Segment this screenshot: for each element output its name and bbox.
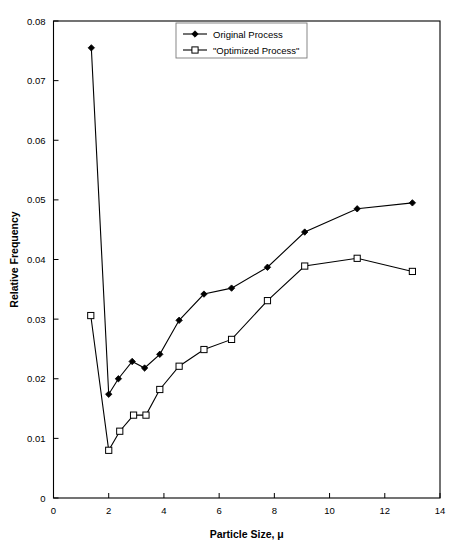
data-point-open-square <box>409 268 415 274</box>
y-tick-label: 0.02 <box>27 373 46 384</box>
x-tick-label: 2 <box>106 505 111 516</box>
data-point-filled-diamond <box>409 200 415 206</box>
data-point-open-square <box>88 312 94 318</box>
chart-canvas: 02468101214 00.010.020.030.040.050.060.0… <box>0 0 459 554</box>
y-tick-label: 0 <box>40 493 45 504</box>
plot-frame <box>54 21 441 498</box>
y-tick-label: 0.01 <box>27 433 46 444</box>
data-point-open-square <box>302 263 308 269</box>
y-tick-label: 0.04 <box>27 254 46 265</box>
plot-border <box>54 21 441 498</box>
data-point-open-square <box>264 298 270 304</box>
x-axis-ticks: 02468101214 <box>51 493 445 516</box>
data-point-filled-diamond <box>106 391 112 397</box>
series-line <box>91 48 412 394</box>
x-tick-label: 12 <box>379 505 390 516</box>
data-point-open-square <box>228 336 234 342</box>
y-tick-label: 0.03 <box>27 314 46 325</box>
x-tick-label: 10 <box>324 505 335 516</box>
data-point-open-square <box>117 428 123 434</box>
data-point-open-square <box>130 412 136 418</box>
x-tick-label: 0 <box>51 505 56 516</box>
data-point-open-square <box>106 447 112 453</box>
chart-legend: Original Process"Optimized Process" <box>176 23 307 58</box>
data-point-open-square <box>143 412 149 418</box>
legend-entry-label: Original Process <box>213 29 283 40</box>
y-tick-label: 0.07 <box>27 75 46 86</box>
data-point-open-square <box>176 363 182 369</box>
data-point-filled-diamond <box>354 206 360 212</box>
legend-marker-open-square <box>192 47 198 53</box>
series-line <box>91 258 413 450</box>
x-tick-label: 6 <box>216 505 221 516</box>
y-tick-label: 0.06 <box>27 135 46 146</box>
data-point-filled-diamond <box>228 285 234 291</box>
data-point-open-square <box>201 346 207 352</box>
y-tick-label: 0.05 <box>27 194 46 205</box>
y-axis-title: Relative Frequency <box>8 211 20 307</box>
data-point-open-square <box>354 255 360 261</box>
legend-entry-label: "Optimized Process" <box>213 45 299 56</box>
data-series <box>88 45 415 398</box>
data-point-open-square <box>157 386 163 392</box>
y-tick-label: 0.08 <box>27 16 46 27</box>
x-tick-label: 14 <box>435 505 446 516</box>
chart-figure: 02468101214 00.010.020.030.040.050.060.0… <box>0 0 459 554</box>
x-tick-label: 4 <box>161 505 166 516</box>
data-series <box>88 255 416 453</box>
x-tick-label: 8 <box>272 505 277 516</box>
data-series-group <box>88 45 416 454</box>
x-axis-title: Particle Size, μ <box>210 528 284 540</box>
data-point-filled-diamond <box>88 45 94 51</box>
